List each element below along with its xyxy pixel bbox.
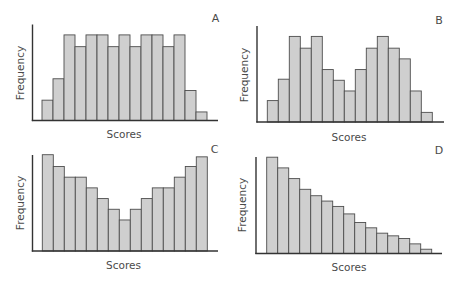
histogram-bar: [130, 47, 141, 121]
histogram-bar: [355, 70, 366, 122]
histogram-bar: [377, 233, 388, 253]
histogram-bar: [300, 48, 311, 122]
y-axis-label: Frequency: [238, 48, 250, 102]
histogram-bar: [97, 199, 108, 251]
histogram-bar: [141, 35, 152, 121]
histogram-bar: [64, 177, 75, 251]
histogram-bar: [366, 48, 377, 122]
histogram-bar: [185, 91, 196, 121]
histogram-panel-b: B Scores Frequency: [238, 14, 445, 143]
histogram-bar: [278, 79, 289, 122]
y-axis-label: Frequency: [236, 178, 248, 232]
histogram-bar: [108, 209, 119, 251]
histogram-bar: [86, 35, 97, 121]
histogram-bar: [163, 47, 174, 121]
histogram-bar: [278, 168, 289, 254]
panel-label: D: [435, 144, 443, 157]
histogram-bar: [322, 201, 333, 253]
histogram-bar: [130, 209, 141, 251]
histogram-bar: [300, 189, 311, 253]
histogram-bar: [75, 47, 86, 121]
x-axis-label: Scores: [107, 128, 142, 140]
histogram-panel-c: C Scores Frequency: [14, 143, 219, 272]
histogram-bar: [388, 48, 399, 122]
histogram-bar: [267, 157, 278, 253]
histogram-bar: [344, 91, 355, 122]
histogram-bar: [53, 166, 64, 251]
histogram-bar: [163, 188, 174, 251]
histogram-bar: [311, 36, 322, 122]
histogram-bar: [333, 206, 344, 253]
x-axis-label: Scores: [332, 131, 367, 143]
y-axis-label: Frequency: [14, 46, 26, 100]
histogram-bar: [410, 244, 421, 254]
histogram-bar: [388, 236, 399, 254]
x-axis-label: Scores: [106, 259, 141, 271]
histogram-bar: [366, 228, 377, 254]
histogram-bar: [75, 177, 86, 251]
histogram-bar: [64, 35, 75, 121]
x-axis-label: Scores: [332, 261, 367, 273]
histogram-bar: [174, 177, 185, 251]
histogram-bar: [152, 35, 163, 121]
histogram-bar: [86, 188, 97, 251]
histogram-bar: [421, 112, 432, 122]
histogram-bar: [174, 35, 185, 121]
histogram-bar: [119, 35, 130, 121]
histogram-bars: [267, 36, 432, 122]
histogram-bars: [42, 35, 207, 121]
histogram-bar: [108, 47, 119, 121]
histogram-bar: [267, 101, 278, 122]
histogram-bar: [141, 199, 152, 251]
histogram-bar: [333, 80, 344, 122]
histogram-bar: [152, 188, 163, 251]
histogram-bar: [97, 35, 108, 121]
histogram-bars: [267, 157, 432, 253]
histogram-bar: [196, 112, 207, 121]
histogram-bar: [311, 196, 322, 254]
histogram-bar: [399, 239, 410, 254]
histogram-bar: [42, 155, 53, 251]
histogram-bar: [344, 214, 355, 254]
histogram-figure: A Scores Frequency B Scores Frequency C …: [0, 0, 454, 282]
histogram-bar: [42, 100, 53, 120]
histogram-panel-a: A Scores Frequency: [14, 12, 220, 140]
histogram-bar: [289, 179, 300, 254]
panel-label: A: [212, 12, 220, 25]
histogram-bar: [196, 157, 207, 251]
histogram-bar: [119, 220, 130, 251]
y-axis-label: Frequency: [14, 176, 26, 230]
histogram-bar: [377, 36, 388, 122]
histogram-bar: [185, 166, 196, 251]
panel-label: C: [211, 143, 219, 156]
histogram-bar: [322, 70, 333, 122]
histogram-bar: [289, 36, 300, 122]
panel-label: B: [435, 14, 443, 27]
histogram-bar: [399, 59, 410, 122]
histogram-bar: [410, 91, 421, 122]
histogram-bar: [355, 222, 366, 253]
histogram-panel-d: D Scores Frequency: [236, 144, 443, 273]
histogram-bar: [53, 79, 64, 121]
histogram-bars: [42, 155, 207, 251]
